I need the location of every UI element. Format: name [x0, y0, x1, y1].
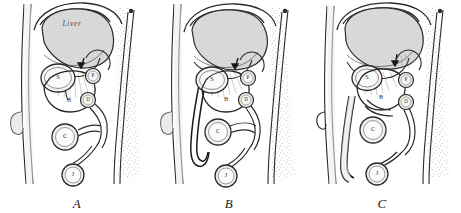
organ-colon: C — [52, 124, 78, 150]
panel-c-drawing: S B P D — [305, 0, 459, 190]
abdominal-wall-fill — [174, 4, 183, 184]
organ-label-duodenum: D — [244, 96, 248, 102]
organ-label-duodenum: D — [86, 96, 90, 102]
panel-a: Liver S B — [0, 0, 154, 213]
panel-a-drawing: Liver S B — [0, 0, 154, 190]
panel-a-caption: A — [0, 196, 154, 212]
organ-label-bile: B — [379, 93, 383, 100]
organ-duodenum: D — [239, 93, 254, 108]
organ-label-pylorus: P — [405, 76, 408, 82]
organ-label-pylorus: P — [92, 72, 95, 78]
organ-pylorus: P — [86, 69, 101, 84]
organ-pylorus: P — [399, 73, 414, 88]
organ-label-colon: C — [216, 127, 220, 134]
organ-label-stomach: S — [365, 73, 369, 80]
retroperitoneal-stipple — [421, 4, 459, 184]
panel-b-caption: B — [152, 196, 306, 212]
organ-colon: C — [205, 119, 231, 145]
organ-label-duodenum: D — [404, 98, 408, 104]
organ-label-colon: C — [63, 132, 67, 139]
organ-duodenum: D — [399, 95, 414, 110]
organ-jejunum: J — [215, 165, 237, 187]
abdominal-wall-fill — [24, 4, 33, 184]
liver — [343, 4, 427, 72]
organ-jejunum: J — [366, 163, 388, 185]
organ-jejunum: J — [62, 164, 84, 186]
liver-label: Liver — [62, 19, 82, 28]
panel-b-drawing: S B P D — [152, 0, 306, 190]
organ-stomach: S — [41, 64, 75, 92]
retroperitoneal-stipple — [112, 4, 154, 184]
abdominal-wall-fill — [327, 6, 336, 184]
bowel-connections — [227, 106, 260, 168]
panel-b: S B P D — [152, 0, 306, 213]
organ-label-bile: B — [224, 95, 228, 102]
organ-label-bile: B — [67, 96, 71, 103]
descending-loop — [191, 80, 209, 166]
figure-root: Liver S B — [0, 0, 461, 213]
liver — [190, 6, 272, 74]
panel-c: S B P D — [305, 0, 459, 213]
organ-label-colon: C — [371, 125, 375, 132]
panel-c-caption: C — [305, 196, 459, 212]
organ-colon: C — [360, 117, 386, 143]
liver: Liver — [40, 6, 120, 72]
organ-label-pylorus: P — [247, 74, 250, 80]
organ-pylorus: P — [241, 71, 256, 86]
organ-duodenum: D — [81, 93, 96, 108]
